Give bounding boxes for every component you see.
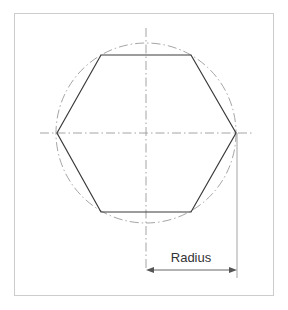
figure-border bbox=[15, 14, 274, 296]
diagram-canvas: Radius bbox=[0, 0, 288, 310]
radius-dimension-label: Radius bbox=[171, 250, 212, 265]
hexagon-radius-diagram: Radius bbox=[0, 0, 288, 310]
